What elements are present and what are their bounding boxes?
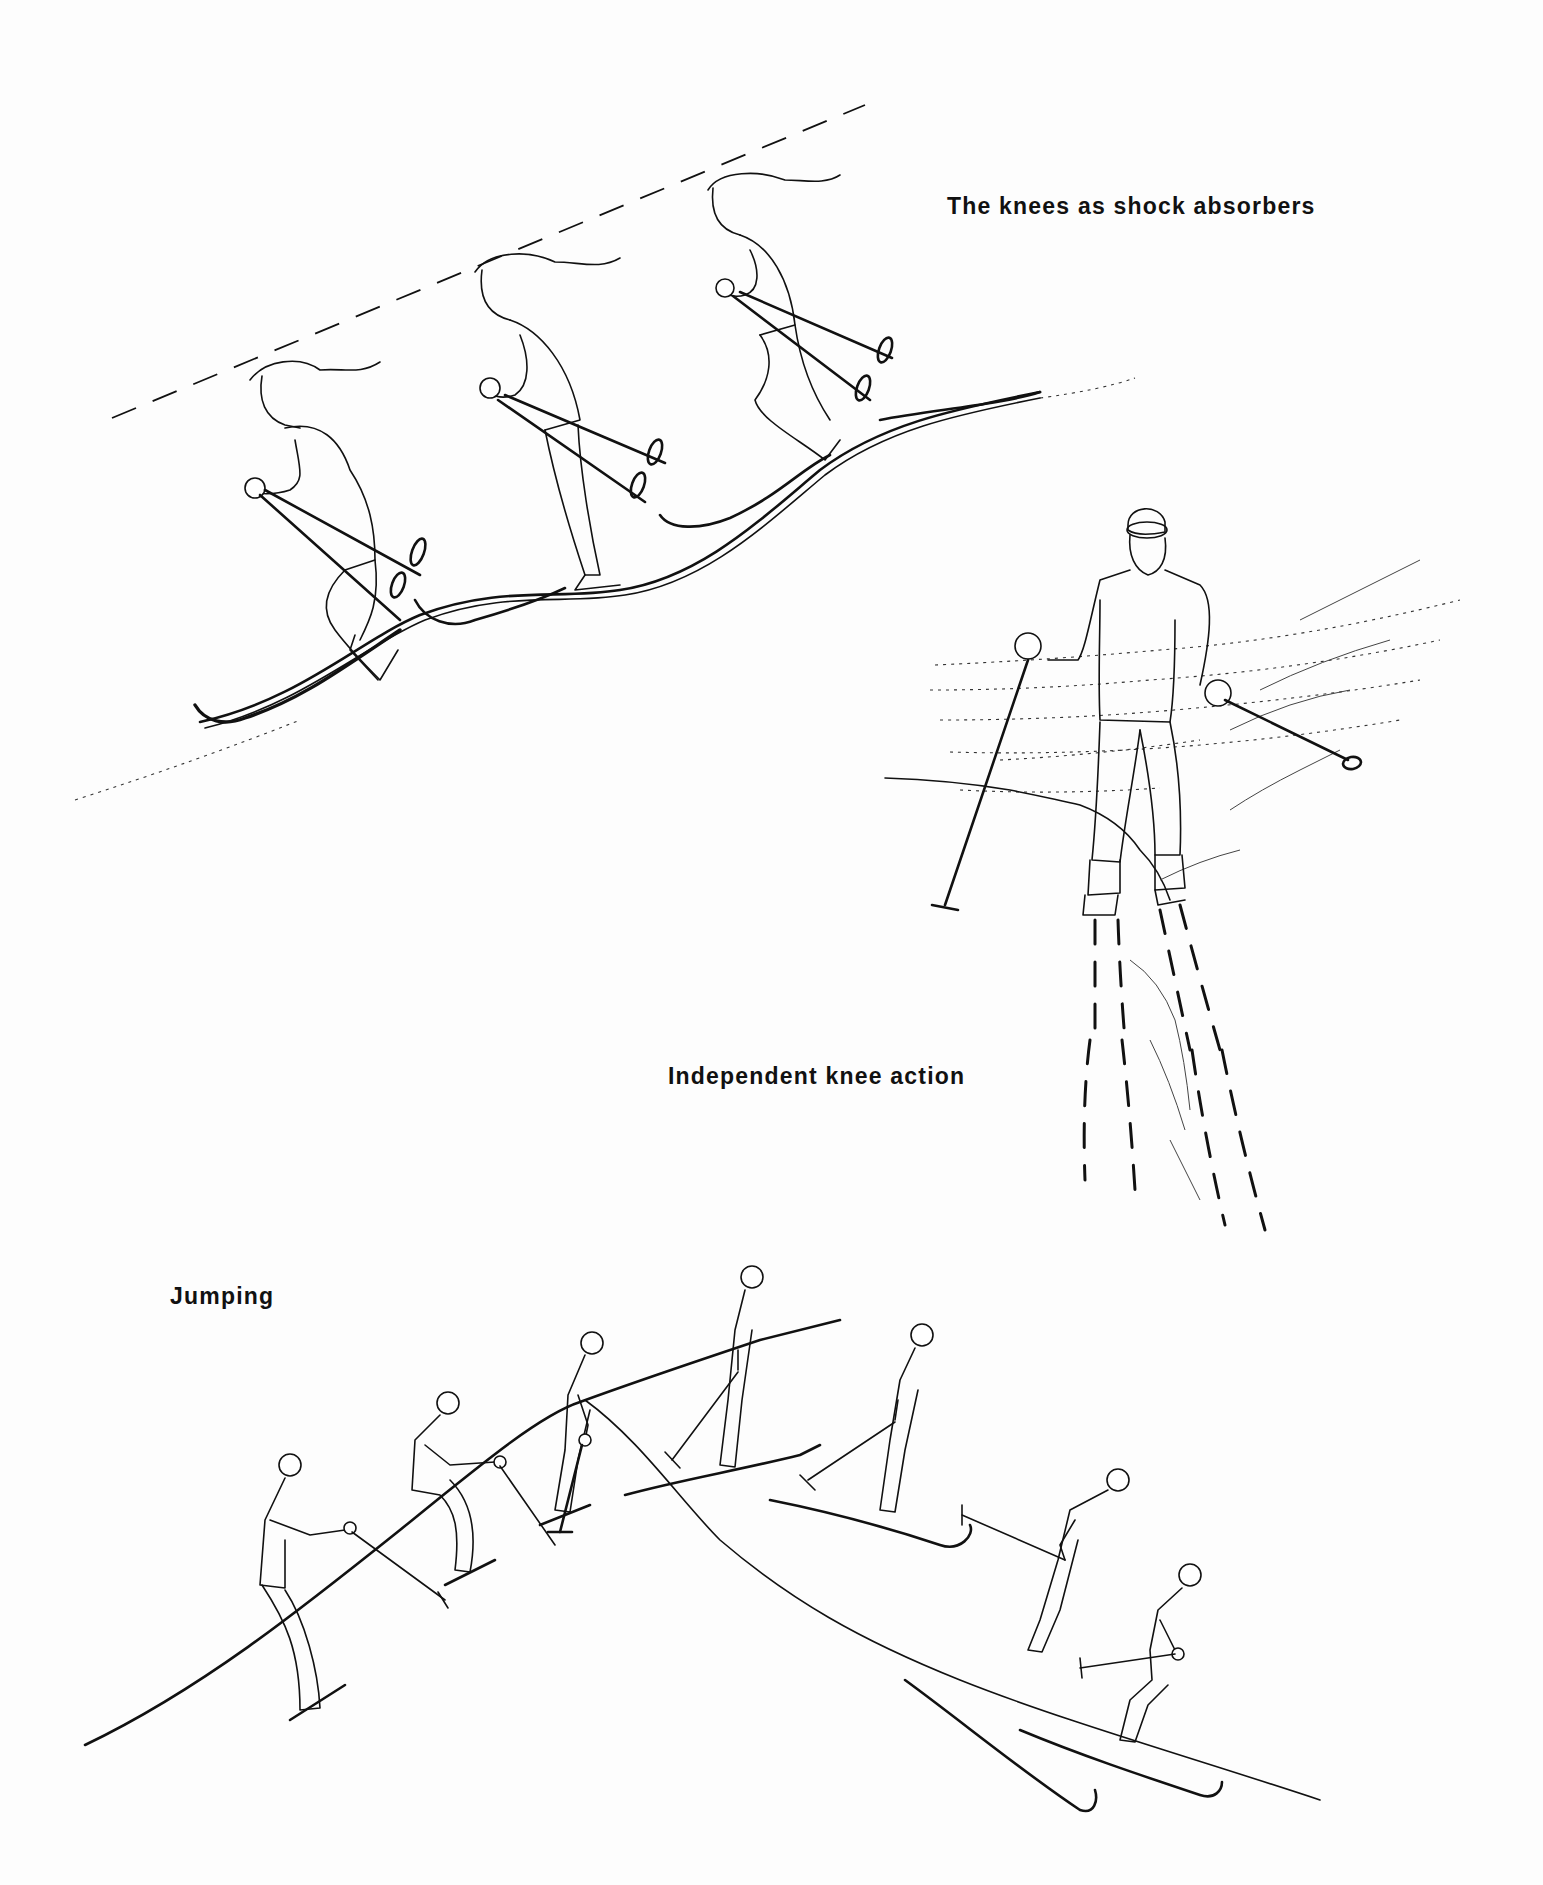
bump-surface: [200, 392, 1040, 722]
skier-front-view: [932, 509, 1362, 915]
caption-jumping: Jumping: [170, 1283, 274, 1310]
jumping-illustration: [85, 1266, 1320, 1811]
bump-continuation: [1040, 378, 1135, 398]
skier-figure-3: [660, 173, 1040, 526]
ski-track: [1084, 1040, 1090, 1180]
hill-crest: [85, 1320, 840, 1745]
bump-surface-lower: [205, 398, 1040, 728]
hill-downslope: [585, 1400, 1320, 1800]
terrain-ledge: [885, 778, 1170, 900]
jumper-2: [412, 1392, 555, 1585]
jumper-3: [540, 1332, 603, 1532]
jumper-5: [770, 1324, 971, 1547]
right-pole: [1225, 700, 1348, 760]
caption-independent-knee-action: Independent knee action: [668, 1063, 965, 1090]
slope-line: [75, 720, 300, 800]
skier-figure-1: [195, 361, 565, 722]
independent-knee-action-illustration: [885, 509, 1460, 1230]
skier-figure-2: [475, 254, 665, 590]
head-level-dashed-line: [112, 105, 865, 418]
jumper-1: [260, 1454, 448, 1720]
illustrations-canvas: [0, 0, 1543, 1885]
jumper-7: [1020, 1564, 1222, 1796]
caption-shock-absorbers: The knees as shock absorbers: [947, 193, 1316, 220]
book-page: The knees as shock absorbers Independent…: [0, 0, 1543, 1885]
jumper-4: [625, 1266, 820, 1495]
